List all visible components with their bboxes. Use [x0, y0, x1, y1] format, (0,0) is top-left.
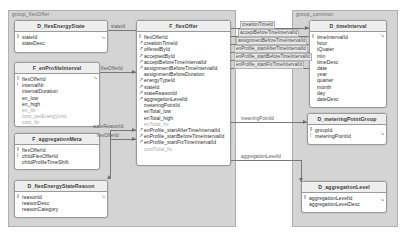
entity-d-meteringpointgroup[interactable]: D_meteringPointGroup ǁgroupId ǀmeteringP…	[307, 113, 387, 145]
entity-body-d-flexenergystate: ǁstateId ·stateDesc	[15, 32, 107, 48]
entity-title-d-flexenergystatereason: D_flexEnergyStateReason	[15, 181, 107, 192]
edge-label-acceptbefore: acceptBeforeTimeIntervalId	[238, 29, 299, 37]
entity-d-flexenergystatereason[interactable]: D_flexEnergyStateReason ǁreasonId ·reaso…	[14, 180, 108, 218]
edge-aggregationlevelid	[231, 160, 301, 161]
edge-reason-arrow	[107, 175, 111, 179]
entity-title-d-flexenergystate: D_flexEnergyState	[15, 21, 107, 32]
entity-d-aggregationlevel[interactable]: D_aggregationLevel ǁaggregationLevelId ·…	[301, 181, 387, 213]
entity-f-aggregationmeta[interactable]: F_aggregationMeta ǁflexOfferId ǀchildFle…	[14, 133, 100, 170]
entity-d-timeinterval[interactable]: D_timeInterval ǁtimeIntervalId ·hour ·tQ…	[309, 20, 387, 108]
entity-body-d-flexenergystatereason: ǁreasonId ·reasonDesc ·reasonCategory	[15, 192, 107, 215]
diagram-canvas: group_flexOffer group_common stateId fle…	[0, 0, 406, 236]
attr-row: ·dateDesc	[312, 96, 384, 102]
entity-d-flexenergystate[interactable]: D_flexEnergyState ǁstateId ·stateDesc ↘	[14, 20, 108, 53]
entity-title-d-aggregationlevel: D_aggregationLevel	[302, 182, 386, 193]
entity-title-f-aggregationmeta: F_aggregationMeta	[15, 134, 99, 145]
entity-title-d-meteringpointgroup: D_meteringPointGroup	[308, 114, 386, 125]
group-common-label: group_common	[296, 11, 333, 17]
entity-body-d-meteringpointgroup: ǁgroupId ǀmeteringPointId	[308, 125, 386, 141]
edge-label-stateid: stateId	[110, 24, 126, 30]
resize-caret-icon: ↘	[101, 194, 105, 199]
resize-caret-icon: ↘	[101, 35, 105, 40]
resize-caret-icon: ↘	[380, 131, 384, 136]
entity-f-flexoffer[interactable]: F_flexOffer ǁflexOfferId ↗creationTimeId…	[136, 20, 231, 166]
attr-row: ·reasonCategory	[17, 206, 105, 212]
edge-stateid	[108, 30, 136, 31]
edge-label-aggregationlevelid: aggregationLevelId	[240, 154, 282, 160]
attr-row: ·cost_fix	[17, 119, 97, 125]
entity-body-d-aggregationlevel: ǁaggregationLevelId ·aggregationLevelDes…	[302, 193, 386, 209]
resize-caret-icon: ↘	[93, 75, 97, 80]
edge-label-flexofferid-agg: flexOfferId	[96, 133, 120, 139]
attr-row: ·aggregationLevelDesc	[304, 201, 384, 207]
entity-f-enprofileinterval[interactable]: F_enProfileInterval ǁflexOfferId ǀinterv…	[14, 62, 100, 127]
attr-row: ǀmeteringPointId	[310, 133, 384, 139]
resize-caret-icon: ↘	[380, 33, 384, 38]
entity-title-d-timeinterval: D_timeInterval	[310, 21, 386, 32]
edge-flexofferid-enprofile	[100, 72, 136, 73]
group-flexoffer-label: group_flexOffer	[12, 11, 49, 17]
edge-label-statereasonid: stateReasonId	[92, 124, 124, 130]
edge-meteringpointid	[231, 122, 307, 123]
entity-body-f-enprofileinterval: ǁflexOfferId ǀintervalNr ·intervalDurati…	[15, 74, 99, 128]
edge-label-meteringpointid: meteringPointId	[240, 116, 275, 122]
entity-body-f-aggregationmeta: ǁflexOfferId ǀchildFlexOfferId ·childPro…	[15, 145, 99, 168]
edge-label-flexofferid-enprofile: flexOfferId	[100, 66, 124, 72]
edge-label-startfix: enProfile_startFixTimeIntervalId	[234, 61, 304, 69]
attr-row: ·stateDesc	[17, 40, 105, 46]
edge-label-startafter: enProfile_startAfterTimeIntervalId	[234, 45, 308, 53]
attr-row: ·costTotal_fix	[139, 146, 228, 152]
entity-body-d-timeinterval: ǁtimeIntervalId ·hour ·tQuater ·min ·tim…	[310, 32, 386, 104]
resize-caret-icon: ↘	[380, 197, 384, 202]
attr-row: ·childProfileTimeShift	[17, 159, 97, 165]
entity-title-f-enprofileinterval: F_enProfileInterval	[15, 63, 99, 74]
edge-label-startbefore: enProfile_startBeforeTimeIntervalId	[234, 53, 312, 61]
entity-body-f-flexoffer: ǁflexOfferId ↗creationTimeId ↗offeredByI…	[137, 32, 230, 154]
entity-title-f-flexoffer: F_flexOffer	[137, 21, 230, 32]
edge-label-creationtimeid: creationTimeId	[240, 21, 275, 29]
edge-label-assignmentbefore: assignmentBeforeTimeIntervalId	[236, 37, 307, 45]
